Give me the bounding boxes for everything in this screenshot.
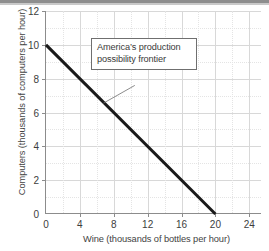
x-tick-label: 24 [244,219,255,230]
x-tick-label: 20 [210,219,221,230]
x-tick-label: 0 [43,219,49,230]
ppf-annotation-callout: America’s production possibility frontie… [91,38,197,70]
x-tick-label: 8 [111,219,117,230]
y-tick-label: 6 [33,107,39,118]
y-axis-title: Computers (thousands of computers per ho… [17,0,27,207]
y-tick-label: 10 [28,39,39,50]
x-tick-label: 16 [176,219,187,230]
callout-line-2: possibility frontier [97,54,191,66]
x-axis-title: Wine (thousands of bottles per hour) [44,234,269,244]
x-tick-label: 4 [77,219,83,230]
callout-line-1: America’s production [97,42,191,54]
x-tick-label: 12 [142,219,153,230]
y-tick-label: 2 [33,175,39,186]
y-tick-label: 12 [28,6,39,17]
y-tick-label: 4 [33,141,39,152]
y-tick-label: 8 [33,73,39,84]
scan-edge-band-inner [0,3,269,5]
y-tick-label: 0 [33,209,39,220]
chart-figure: Computers (thousands of computers per ho… [0,0,269,251]
